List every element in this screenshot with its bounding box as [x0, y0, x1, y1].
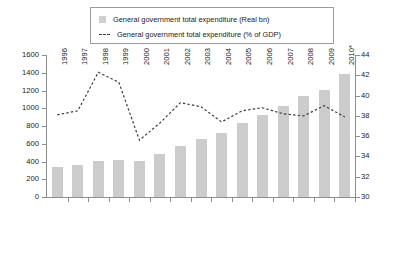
y-tick-label-left: 1400 [3, 69, 39, 77]
chart-legend: General government total expenditure (Re… [90, 7, 334, 44]
x-tick [191, 198, 192, 202]
x-tick-label: 2006 [266, 48, 274, 65]
y-tick-left [42, 73, 46, 74]
y-tick-right [356, 156, 360, 157]
x-tick-label: 2007 [287, 48, 295, 65]
x-tick [150, 198, 151, 202]
pct-gdp-line [57, 72, 344, 140]
x-tick [334, 198, 335, 202]
y-tick-label-right: 36 [361, 132, 385, 140]
x-tick [355, 198, 356, 202]
x-tick [109, 198, 110, 202]
x-tick [252, 198, 253, 202]
y-tick-left [42, 162, 46, 163]
y-tick-label-right: 34 [361, 152, 385, 160]
legend-label-pct-gdp: General government total expenditure (% … [117, 30, 281, 39]
x-tick-label: 1999 [122, 48, 130, 65]
y-tick-right [356, 75, 360, 76]
x-tick-label: 2002 [184, 48, 192, 65]
x-tick [170, 198, 171, 202]
y-tick-left [42, 144, 46, 145]
legend-label-real-bn: General government total expenditure (Re… [113, 15, 270, 24]
legend-item-real-bn: General government total expenditure (Re… [99, 12, 327, 27]
y-tick-right [356, 96, 360, 97]
x-tick [273, 198, 274, 202]
plot-area: 02004006008001000120014001600 3032343638… [47, 55, 355, 197]
y-tick-right [356, 116, 360, 117]
bar-swatch-icon [99, 16, 106, 23]
y-tick-left [42, 91, 46, 92]
y-tick-label-left: 800 [3, 122, 39, 130]
x-tick-label: 2008 [307, 48, 315, 65]
y-tick-label-right: 40 [361, 92, 385, 100]
y-tick-label-right: 32 [361, 173, 385, 181]
line-series [47, 55, 355, 197]
x-tick-label: 2009 [328, 48, 336, 65]
x-tick [211, 198, 212, 202]
legend-item-pct-gdp: General government total expenditure (% … [99, 27, 327, 42]
y-tick-right [356, 55, 360, 56]
x-axis [46, 197, 356, 198]
y-tick-label-right: 42 [361, 71, 385, 79]
dashed-line-icon [99, 34, 110, 35]
x-tick [68, 198, 69, 202]
x-tick-label: 2001 [163, 48, 171, 65]
x-tick [293, 198, 294, 202]
y-tick-right [356, 197, 360, 198]
y-tick-label-left: 400 [3, 158, 39, 166]
x-tick [88, 198, 89, 202]
x-tick-label: 2000 [143, 48, 151, 65]
y-tick-label-right: 44 [361, 51, 385, 59]
x-tick-label: 2004 [225, 48, 233, 65]
y-tick-label-left: 200 [3, 175, 39, 183]
y-tick-right [356, 177, 360, 178]
y-tick-right [356, 136, 360, 137]
x-tick-label: 2005 [245, 48, 253, 65]
x-tick-label: 1997 [81, 48, 89, 65]
y-tick-left [42, 108, 46, 109]
y-tick-label-left: 1600 [3, 51, 39, 59]
y-tick-left [42, 55, 46, 56]
y-tick-label-left: 1000 [3, 104, 39, 112]
x-tick-label: 1998 [102, 48, 110, 65]
y-tick-label-left: 600 [3, 140, 39, 148]
expenditure-chart: General government total expenditure (Re… [0, 0, 405, 255]
y-tick-left [42, 179, 46, 180]
y-tick-left [42, 197, 46, 198]
y-tick-label-right: 30 [361, 193, 385, 201]
x-tick [232, 198, 233, 202]
y-tick-label-left: 1200 [3, 87, 39, 95]
x-tick [314, 198, 315, 202]
x-tick [129, 198, 130, 202]
y-tick-label-right: 38 [361, 112, 385, 120]
x-tick-label: 2003 [204, 48, 212, 65]
y-tick-left [42, 126, 46, 127]
x-tick-label: 1996 [61, 48, 69, 65]
x-tick-label: 2010* [348, 45, 356, 65]
y-tick-label-left: 0 [3, 193, 39, 201]
